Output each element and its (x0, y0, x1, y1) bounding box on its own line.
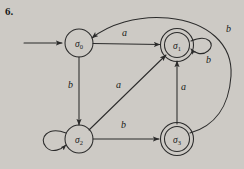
state-s0[interactable]: σ0 (65, 29, 93, 57)
state-s3[interactable]: σ3 (161, 123, 194, 156)
edge-s1-self-loop (191, 38, 211, 53)
state-s2-label: σ2 (75, 135, 83, 146)
edge-s2-self-loop (43, 131, 66, 151)
automaton-canvas: σ0 σ1 σ2 σ3 (0, 0, 244, 169)
edge-label-s3-s1: a (181, 82, 186, 92)
edge-label-s3-s0: b (226, 24, 231, 34)
edge-s3-s0 (92, 17, 231, 133)
edge-s2-s1 (89, 55, 166, 130)
state-s3-label: σ3 (173, 135, 181, 146)
state-s2[interactable]: σ2 (65, 125, 93, 153)
state-s1[interactable]: σ1 (161, 29, 194, 62)
edge-s0-s1 (93, 44, 160, 45)
edge-label-s2-s1: a (116, 80, 121, 90)
edge-label-s0-s2: b (68, 80, 73, 90)
edge-label-s1-self-loop: b (206, 55, 211, 65)
state-s0-label: σ0 (75, 39, 83, 50)
state-s1-label: σ1 (173, 41, 181, 52)
automaton-figure: 6. σ0 (0, 0, 244, 169)
edge-label-s2-s3: b (121, 120, 126, 130)
edge-label-s0-s1: a (122, 28, 127, 38)
